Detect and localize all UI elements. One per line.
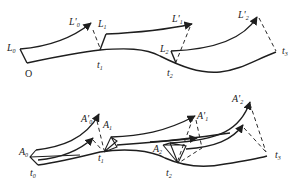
base-trajectory	[27, 49, 276, 72]
arrow-L1-to-L1prime	[106, 24, 192, 34]
arrow-L2-to-L2prime	[171, 17, 257, 51]
arrow-A1-to-A1prime	[111, 116, 195, 137]
label-origin: O	[25, 68, 32, 79]
bottom-diagram: A0 t0 A'0 A1 t1 A'1 A2 t2 A'2 t3	[18, 93, 281, 179]
label-L2-prime: L'2	[237, 9, 249, 21]
label-t0: t0	[30, 167, 36, 179]
top-diagram: L0 O L'0 L1 t1 L'1 L2 t2 L'2 t3	[6, 9, 288, 79]
label-A1-prime: A'1	[196, 110, 208, 122]
label-t1-top: t1	[97, 59, 103, 71]
label-t2-top: t2	[167, 67, 173, 79]
label-L1-prime: L'1	[171, 13, 183, 25]
dashed-L0prime-t1	[93, 30, 100, 48]
edge-L0-O	[20, 49, 27, 63]
label-A1: A1	[102, 119, 112, 131]
label-A2: A2	[152, 143, 162, 155]
label-t3-bottom: t3	[275, 149, 281, 161]
label-t3-top: t3	[282, 45, 288, 57]
label-A2-prime: A'2	[231, 93, 243, 105]
label-L0-prime: L'0	[68, 16, 80, 28]
edge-t1-L1	[100, 34, 106, 50]
label-L2: L2	[159, 43, 169, 55]
label-A0: A0	[18, 146, 28, 158]
diagram-canvas: L0 O L'0 L1 t1 L'1 L2 t2 L'2 t3	[0, 0, 299, 190]
arrow-A2-inner	[186, 125, 243, 149]
label-L0: L0	[6, 42, 16, 54]
dashed-L1prime-t2	[176, 27, 190, 62]
dashed-L2prime-t3	[259, 18, 276, 51]
arrow-L0-to-L0prime	[20, 23, 91, 49]
label-L1: L1	[97, 18, 107, 30]
label-t1-bottom: t1	[98, 152, 104, 164]
label-t2-bottom: t2	[166, 167, 172, 179]
label-A0-prime: A'0	[80, 113, 92, 125]
dashed-A2prime-t3	[244, 104, 266, 152]
